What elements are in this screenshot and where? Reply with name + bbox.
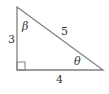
triangle-shape (17, 7, 103, 70)
side-label-horizontal: 4 (56, 73, 63, 86)
side-label-hypotenuse: 5 (61, 25, 68, 38)
side-label-vertical: 3 (8, 33, 15, 46)
right-angle-marker (17, 62, 25, 70)
angle-label-bottom-right: θ (74, 55, 81, 68)
triangle-diagram: 3 β 5 θ 4 (0, 0, 109, 94)
angle-label-top: β (21, 20, 28, 33)
